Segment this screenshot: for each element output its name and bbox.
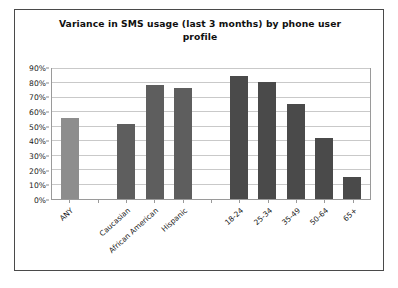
- bar[interactable]: [174, 88, 192, 199]
- x-axis-tick-mark: [296, 200, 297, 203]
- bar-slot: [169, 69, 197, 199]
- y-axis-tick-label: 10%: [29, 181, 46, 190]
- x-axis-tick-mark: [69, 200, 70, 203]
- bar[interactable]: [315, 138, 333, 199]
- y-axis-tick-label: 40%: [29, 137, 46, 146]
- y-axis-tick-label: 20%: [29, 166, 46, 175]
- bar-slot-empty: [84, 69, 112, 199]
- bar[interactable]: [258, 82, 276, 199]
- y-axis-tick-mark: [46, 170, 49, 171]
- bar-slot: [282, 69, 310, 199]
- bar-slot: [112, 69, 140, 199]
- y-axis-tick-mark: [46, 82, 49, 83]
- y-axis-tick-mark: [46, 97, 49, 98]
- y-axis-tick-mark: [46, 68, 49, 69]
- x-axis-tick-mark: [211, 200, 212, 203]
- bar[interactable]: [146, 85, 164, 199]
- bar-series: [52, 69, 370, 199]
- plot-area: [51, 68, 371, 200]
- bar-slot: [56, 69, 84, 199]
- y-axis-tick-mark: [46, 185, 49, 186]
- x-axis-tick-label: ANY: [0, 206, 75, 288]
- bar[interactable]: [230, 76, 248, 199]
- x-axis-tick-mark: [126, 200, 127, 203]
- bar[interactable]: [61, 118, 79, 199]
- bar[interactable]: [117, 124, 135, 199]
- bar-slot: [338, 69, 366, 199]
- y-axis: 90%80%70%60%50%40%30%20%10%0%: [15, 62, 49, 206]
- bar-slot: [141, 69, 169, 199]
- y-axis-tick-label: 30%: [29, 152, 46, 161]
- y-axis-tick-mark: [46, 112, 49, 113]
- x-axis-tick-mark: [324, 200, 325, 203]
- y-axis-tick-mark: [46, 126, 49, 127]
- x-axis-tick-mark: [154, 200, 155, 203]
- bar[interactable]: [287, 104, 305, 199]
- x-axis-tick-mark: [353, 200, 354, 203]
- bar-slot: [253, 69, 281, 199]
- y-axis-tick-mark: [46, 141, 49, 142]
- bar[interactable]: [343, 177, 361, 199]
- x-axis-tick-mark: [98, 200, 99, 203]
- bar-slot: [225, 69, 253, 199]
- chart-frame: Variance in SMS usage (last 3 months) by…: [14, 9, 384, 271]
- x-axis-tick-mark: [239, 200, 240, 203]
- y-axis-tick-label: 50%: [29, 122, 46, 131]
- y-axis-tick-label: 80%: [29, 78, 46, 87]
- x-axis-labels: ANYCaucasianAfrican AmericanHispanic18-2…: [51, 200, 371, 270]
- chart-title: Variance in SMS usage (last 3 months) by…: [41, 17, 359, 43]
- bar-slot-empty: [197, 69, 225, 199]
- bar-slot: [310, 69, 338, 199]
- x-axis-tick-mark: [268, 200, 269, 203]
- y-axis-tick-mark: [46, 200, 49, 201]
- y-axis-tick-label: 0%: [34, 196, 46, 205]
- x-axis-tick-mark: [183, 200, 184, 203]
- y-axis-tick-label: 90%: [29, 64, 46, 73]
- y-axis-tick-label: 70%: [29, 93, 46, 102]
- y-axis-tick-mark: [46, 156, 49, 157]
- y-axis-tick-label: 60%: [29, 108, 46, 117]
